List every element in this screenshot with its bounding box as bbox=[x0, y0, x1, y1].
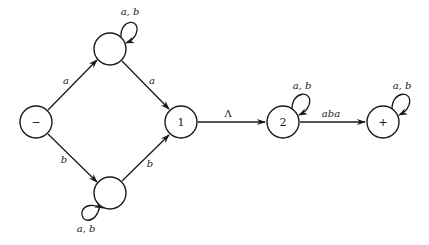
state-final: + bbox=[367, 106, 399, 138]
edge-label-top-s1: a bbox=[149, 75, 155, 86]
edge-label-s1-s2: Λ bbox=[223, 108, 232, 119]
state-start: − bbox=[20, 106, 52, 138]
loop-label-bottom: a, b bbox=[77, 223, 96, 234]
loop-bottom bbox=[82, 205, 103, 220]
loop-label-final: a, b bbox=[393, 80, 412, 91]
state-start-label: − bbox=[31, 116, 40, 129]
state-2: 2 bbox=[267, 106, 299, 138]
state-bottom bbox=[94, 177, 126, 209]
state-1-label: 1 bbox=[178, 116, 185, 129]
edge-label-start-top: a bbox=[63, 75, 69, 86]
loop-label-s2: a, b bbox=[293, 80, 312, 91]
state-final-label: + bbox=[378, 116, 387, 129]
edge-label-bottom-s1: b bbox=[147, 158, 153, 169]
edge-start-bottom bbox=[48, 134, 97, 182]
edge-top-s1 bbox=[122, 61, 169, 109]
edge-label-s2-final: aba bbox=[322, 108, 340, 119]
state-top bbox=[94, 33, 126, 65]
edge-bottom-s1 bbox=[122, 135, 169, 181]
loop-label-top: a, b bbox=[121, 6, 140, 17]
state-2-label: 2 bbox=[280, 116, 287, 129]
edge-start-top bbox=[48, 60, 97, 110]
automaton-diagram: − 1 2 + a b a b Λ aba a, b a, b a, b a, … bbox=[0, 0, 429, 245]
edge-label-start-bottom: b bbox=[61, 154, 67, 165]
state-1: 1 bbox=[165, 106, 197, 138]
